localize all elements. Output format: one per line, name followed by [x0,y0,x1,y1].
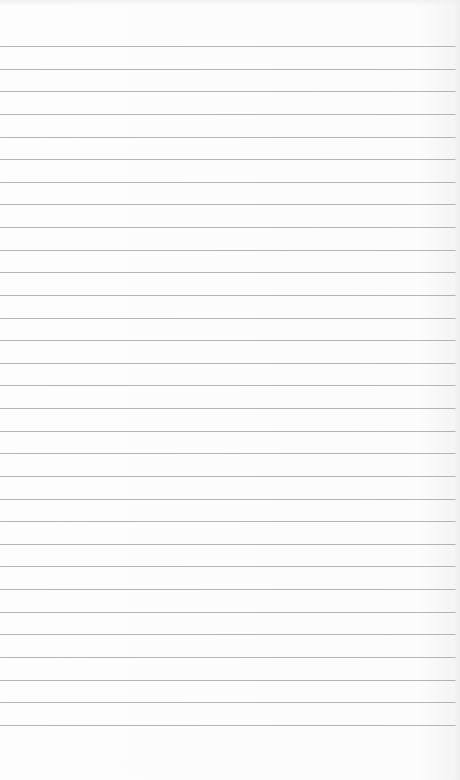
notepad-text-area[interactable] [0,0,460,780]
notepad-page [0,0,460,780]
